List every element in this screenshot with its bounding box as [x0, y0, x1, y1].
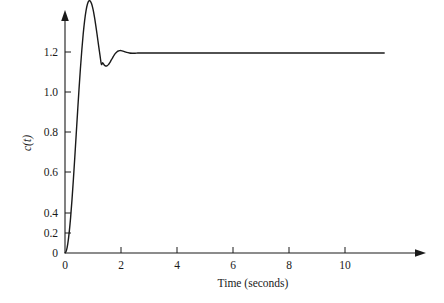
- x-tick-label-6: 6: [230, 259, 236, 271]
- y-tick-label-0_8: 0.8: [44, 126, 59, 138]
- x-tick-label-0: 0: [62, 259, 68, 271]
- step-response-chart: 1.2 1.0 0.8 0.6 0.4 0.2 0 0 2 4 6 8 10 T…: [0, 0, 444, 303]
- response-curve: [65, 1, 384, 253]
- x-tick-label-8: 8: [286, 259, 292, 271]
- x-axis-ticks: [121, 247, 345, 253]
- y-tick-label-1_0: 1.0: [44, 86, 59, 98]
- x-tick-label-10: 10: [339, 259, 351, 271]
- y-axis-title: c(t): [21, 135, 34, 151]
- x-axis-arrow-icon: [415, 249, 426, 257]
- figure-container: 1.2 1.0 0.8 0.6 0.4 0.2 0 0 2 4 6 8 10 T…: [0, 0, 444, 303]
- y-axis-arrow-icon: [61, 10, 69, 21]
- x-axis-title: Time (seconds): [218, 277, 289, 290]
- x-tick-label-4: 4: [174, 259, 180, 271]
- y-tick-label-0_2: 0.2: [44, 227, 59, 239]
- y-tick-label-1_2: 1.2: [44, 46, 59, 58]
- y-tick-label-0: 0: [52, 247, 58, 259]
- x-tick-label-2: 2: [118, 259, 124, 271]
- y-tick-label-0_4: 0.4: [44, 207, 59, 219]
- y-axis-ticks: [65, 52, 71, 233]
- y-tick-label-0_6: 0.6: [44, 166, 59, 178]
